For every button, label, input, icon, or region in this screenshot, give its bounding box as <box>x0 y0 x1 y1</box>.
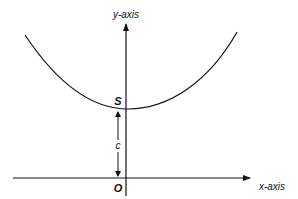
catenary-diagram: y-axis x-axis S c O <box>0 0 298 199</box>
origin-label-o: O <box>114 182 123 194</box>
height-label-c: c <box>116 140 121 151</box>
catenary-curve <box>25 32 237 109</box>
y-axis-label: y-axis <box>112 9 139 20</box>
vertex-label-s: S <box>114 95 122 107</box>
x-axis-label: x-axis <box>258 181 285 192</box>
